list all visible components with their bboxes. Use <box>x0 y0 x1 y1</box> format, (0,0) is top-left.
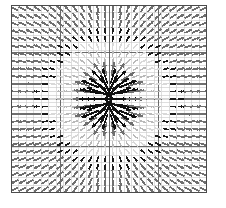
vector-field-svg <box>11 5 207 193</box>
figure-canvas <box>0 0 226 208</box>
quiver-plot <box>11 5 207 193</box>
